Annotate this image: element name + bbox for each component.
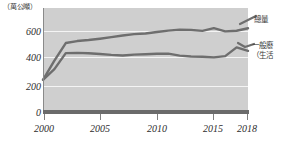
ytick-label-400: 400 <box>3 52 41 63</box>
xtick-label-2015: 2015 <box>203 123 223 134</box>
series-line-general <box>43 47 248 79</box>
xtick-label-2010: 2010 <box>147 123 167 134</box>
legend-label-general-main: 一般廢 <box>252 41 273 50</box>
plot-area <box>43 8 248 113</box>
legend-label-general-sub: （生活 <box>252 51 273 61</box>
y-axis-ticks: 600 400 200 0 <box>0 0 41 158</box>
xtick-label-2005: 2005 <box>90 123 110 134</box>
ytick-label-0: 0 <box>3 107 41 118</box>
chart-figure: （萬公噸） 600 400 200 0 2000 2005 2010 2015 … <box>0 0 282 158</box>
xtick-mark-2010 <box>157 114 158 120</box>
ytick-label-600: 600 <box>3 26 41 37</box>
legend-label-general: 一般廢 （生活 <box>252 41 273 61</box>
xtick-label-2000: 2000 <box>34 123 54 134</box>
y-axis-line <box>43 8 44 114</box>
xtick-mark-2000 <box>44 114 45 120</box>
xtick-mark-2005 <box>100 114 101 120</box>
xtick-mark-2015 <box>213 114 214 120</box>
ytick-label-200: 200 <box>3 81 41 92</box>
x-axis-line <box>43 110 249 114</box>
xtick-mark-2018 <box>247 114 248 120</box>
legend-label-total: 總量 <box>254 15 268 25</box>
xtick-label-2018: 2018 <box>237 123 257 134</box>
series-lines <box>43 8 248 113</box>
